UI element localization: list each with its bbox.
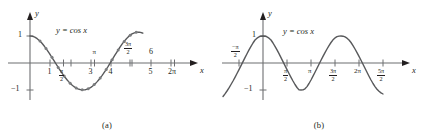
panel-b-x-tick-3pi-over-2: 3π 2 xyxy=(329,68,337,83)
panel-b-y-axis xyxy=(260,12,266,100)
panel-b-plot xyxy=(210,0,428,136)
panel-b-y-tick-neg1: −1 xyxy=(244,85,253,93)
panel-a-x-axis-label: x xyxy=(200,66,204,75)
panel-b-equation-label: y = cos x xyxy=(283,27,314,36)
panel-a-x-tick-4: 4 xyxy=(109,68,113,76)
panel-a-y-axis-label: y xyxy=(35,9,39,18)
panel-a-y-tick-1: 1 xyxy=(18,31,22,39)
panel-a: y x y = cos x 1 −1 1 3 4 5 2π π 6 π 2 3π… xyxy=(0,0,214,136)
panel-b-x-axis xyxy=(222,60,410,66)
panel-a-plot xyxy=(0,0,214,136)
panel-b-x-tick-pi: π xyxy=(308,68,312,75)
panel-b-x-tick-2pi: 2π xyxy=(354,68,361,75)
panel-a-x-tick-6: 6 xyxy=(149,48,153,56)
panel-b-frac4-denominator: 2 xyxy=(231,52,240,59)
panel-b-frac1-denominator: 2 xyxy=(283,76,288,83)
panel-b-caption: (b) xyxy=(210,120,428,130)
panel-a-x-tick-2pi: 2π xyxy=(168,68,176,76)
panel-b-frac2-denominator: 2 xyxy=(329,76,337,83)
panel-a-equation-label: y = cos x xyxy=(56,26,87,35)
panel-a-x-axis xyxy=(8,60,198,66)
panel-a-y-tick-neg1: −1 xyxy=(11,85,20,93)
panel-a-caption: (a) xyxy=(0,120,214,130)
panel-b-y-tick-1: 1 xyxy=(252,31,256,39)
panel-b-x-tick-5pi-over-2: 5π 2 xyxy=(377,68,385,83)
panel-a-frac2-denominator: 2 xyxy=(124,49,132,56)
panel-b-frac3-denominator: 2 xyxy=(377,76,385,83)
panel-a-y-axis xyxy=(27,12,33,100)
panel-a-x-tick-pi-over-2: π 2 xyxy=(59,68,64,83)
panel-a-sample-points xyxy=(39,31,138,92)
panel-a-x-tick-1: 1 xyxy=(48,68,52,76)
figure-cosine-graphs: y x y = cos x 1 −1 1 3 4 5 2π π 6 π 2 3π… xyxy=(0,0,428,136)
panel-a-x-tick-5: 5 xyxy=(149,68,153,76)
panel-b-x-tick-neg-pi-over-2: −π 2 xyxy=(231,44,240,59)
panel-b-y-axis-label: y xyxy=(268,9,272,18)
panel-a-frac1-denominator: 2 xyxy=(59,76,64,83)
panel-b-x-tick-pi-over-2: π 2 xyxy=(283,68,288,83)
panel-b: y x y = cos x 1 −1 π 2π π 2 3π 2 5π 2 −π… xyxy=(210,0,428,136)
panel-a-x-tick-pi: π xyxy=(93,49,97,56)
panel-b-x-axis-label: x xyxy=(412,66,416,75)
panel-a-x-tick-3pi-over-2: 3π 2 xyxy=(124,41,132,56)
panel-a-x-tick-3: 3 xyxy=(89,68,93,76)
